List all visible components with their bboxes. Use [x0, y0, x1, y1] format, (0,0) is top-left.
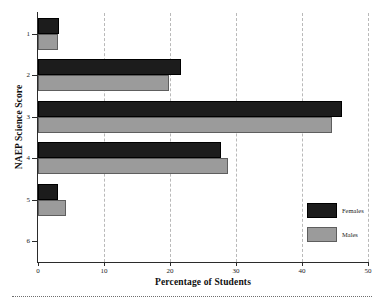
x-tick-label-50: 50 [356, 267, 380, 276]
x-tick-mark-10 [104, 262, 105, 266]
bottom-divider [12, 296, 372, 297]
x-tick-mark-50 [368, 262, 369, 266]
y-tick-label-6: 6 [18, 237, 30, 245]
bar-females-score-3 [38, 101, 342, 117]
bar-group-score-1 [38, 13, 368, 55]
x-tick-mark-40 [302, 262, 303, 266]
legend-label-males: Males [342, 231, 358, 238]
x-axis-title: Percentage of Students [38, 277, 368, 287]
plot-area [38, 13, 368, 262]
y-axis-title: NAEP Science Score [14, 62, 24, 192]
x-tick-label-0: 0 [26, 267, 50, 276]
bar-males-score-1 [38, 34, 58, 50]
y-tick-mark-4 [32, 158, 38, 159]
y-tick-mark-2 [32, 75, 38, 76]
bar-group-score-4 [38, 138, 368, 180]
y-tick-label-1: 1 [18, 30, 30, 38]
y-tick-mark-3 [32, 117, 38, 118]
x-tick-label-10: 10 [92, 267, 116, 276]
x-tick-mark-0 [38, 262, 39, 266]
x-tick-mark-30 [236, 262, 237, 266]
legend-item-females: Females [307, 203, 364, 218]
legend-swatch-females-icon [307, 203, 337, 218]
bar-females-score-4 [38, 142, 221, 158]
x-axis-line [37, 262, 369, 263]
bar-females-score-5 [38, 184, 58, 200]
bar-females-score-2 [38, 59, 181, 75]
gridline-x-50 [368, 13, 369, 262]
bar-males-score-4 [38, 158, 228, 174]
bar-group-score-2 [38, 55, 368, 97]
legend-swatch-males-icon [307, 227, 337, 242]
bar-males-score-5 [38, 200, 66, 216]
bar-females-score-1 [38, 18, 59, 34]
x-tick-label-40: 40 [290, 267, 314, 276]
bar-group-score-3 [38, 96, 368, 138]
x-tick-label-30: 30 [224, 267, 248, 276]
y-tick-mark-6 [32, 241, 38, 242]
legend-item-males: Males [307, 227, 358, 242]
y-tick-mark-5 [32, 200, 38, 201]
legend-label-females: Females [342, 207, 364, 214]
bar-males-score-3 [38, 117, 332, 133]
bar-chart-figure: 123456 01020304050 NAEP Science Score Pe… [0, 0, 380, 306]
y-tick-mark-1 [32, 34, 38, 35]
y-tick-label-5: 5 [18, 196, 30, 204]
x-tick-mark-20 [170, 262, 171, 266]
x-tick-label-20: 20 [158, 267, 182, 276]
bar-males-score-2 [38, 75, 169, 91]
